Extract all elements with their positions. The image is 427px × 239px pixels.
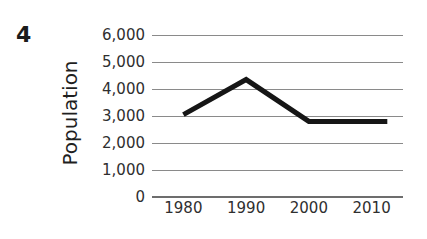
y-tick-label: 6,000 <box>95 28 145 43</box>
x-tick-label: 2010 <box>353 201 391 216</box>
y-axis-tick-labels: 01,0002,0003,0004,0005,0006,000 <box>95 0 145 239</box>
x-tick-label: 2000 <box>290 201 328 216</box>
y-tick-label: 0 <box>95 190 145 205</box>
y-tick-label: 1,000 <box>95 163 145 178</box>
plot-area <box>152 35 403 197</box>
y-tick-label: 2,000 <box>95 136 145 151</box>
data-line <box>183 80 387 122</box>
figure-container: 4 Population 01,0002,0003,0004,0005,0006… <box>0 0 427 239</box>
line-series-population <box>152 35 403 197</box>
x-axis-tick-labels: 1980199020002010 <box>152 201 403 225</box>
x-tick-label: 1990 <box>227 201 265 216</box>
x-tick-label: 1980 <box>164 201 202 216</box>
y-axis-title: Population <box>60 60 80 165</box>
question-number: 4 <box>16 24 31 46</box>
y-tick-label: 3,000 <box>95 109 145 124</box>
y-tick-label: 5,000 <box>95 55 145 70</box>
y-tick-label: 4,000 <box>95 82 145 97</box>
